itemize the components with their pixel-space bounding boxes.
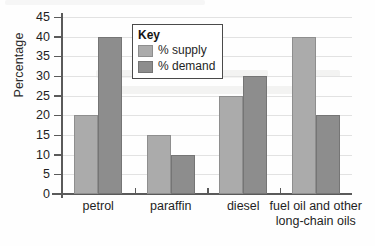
y-tick-label: 5 bbox=[16, 167, 50, 181]
legend: Key % supply% demand bbox=[132, 24, 223, 79]
y-tick-label: 35 bbox=[16, 49, 50, 63]
legend-item: % supply bbox=[138, 43, 217, 58]
bar bbox=[147, 135, 171, 194]
legend-label: % demand bbox=[158, 59, 215, 74]
x-tick-label-line: long-chain oils bbox=[262, 214, 371, 229]
bar bbox=[74, 115, 98, 194]
bar bbox=[171, 155, 195, 194]
y-axis-title: Percentage bbox=[12, 10, 26, 120]
bar bbox=[98, 37, 122, 194]
legend-swatch bbox=[138, 45, 153, 57]
x-tick-label: fuel oil and otherlong-chain oils bbox=[262, 199, 371, 229]
bar bbox=[219, 96, 243, 194]
bar-chart: Percentage 051015202530354045 petrolpara… bbox=[0, 0, 375, 246]
legend-items: % supply% demand bbox=[138, 43, 217, 74]
x-tick-label-line: fuel oil and other bbox=[262, 199, 371, 214]
scan-bleed-artifact bbox=[5, 0, 205, 5]
legend-title: Key bbox=[138, 28, 217, 42]
bar bbox=[316, 115, 340, 194]
y-tick-label: 45 bbox=[16, 10, 50, 24]
bar bbox=[292, 37, 316, 194]
legend-item: % demand bbox=[138, 59, 217, 74]
y-tick-label: 15 bbox=[16, 128, 50, 142]
bar bbox=[243, 76, 267, 194]
legend-label: % supply bbox=[158, 43, 207, 58]
legend-swatch bbox=[138, 61, 153, 73]
y-tick-label: 30 bbox=[16, 69, 50, 83]
y-tick-label: 40 bbox=[16, 30, 50, 44]
y-tick-label: 25 bbox=[16, 89, 50, 103]
y-tick-label: 20 bbox=[16, 108, 50, 122]
y-tick-label: 10 bbox=[16, 148, 50, 162]
